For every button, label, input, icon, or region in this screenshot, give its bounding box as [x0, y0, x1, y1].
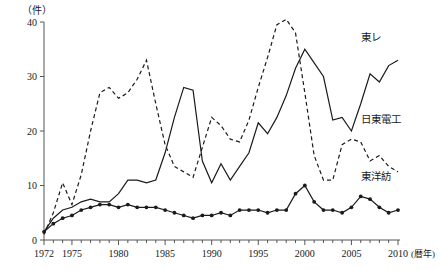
series-marker — [173, 211, 177, 215]
x-axis-unit-label: (暦年) — [411, 248, 435, 259]
series-marker — [210, 214, 214, 218]
line-chart: （件）0102030401972197519801985199019952000… — [0, 0, 444, 270]
x-tick-label: 1975 — [62, 248, 82, 259]
series-marker — [61, 216, 65, 220]
series-line-1 — [44, 19, 398, 234]
x-tick-label: 1972 — [34, 248, 54, 259]
series-marker — [200, 214, 204, 218]
series-marker — [247, 208, 251, 212]
series-marker — [238, 208, 242, 212]
x-tick-label: 1995 — [248, 248, 268, 259]
series-marker — [303, 184, 307, 188]
series-line-0 — [44, 49, 398, 232]
series-marker — [117, 205, 121, 209]
series-marker — [312, 200, 316, 204]
series-marker — [89, 205, 93, 209]
series-label-1: 日東電工 — [361, 113, 401, 125]
series-marker — [182, 214, 186, 218]
x-tick-label: 2000 — [295, 248, 315, 259]
series-marker — [331, 208, 335, 212]
series-marker — [79, 208, 83, 212]
series-marker — [284, 208, 288, 212]
series-marker — [70, 214, 74, 218]
series-marker — [98, 203, 102, 207]
series-marker — [266, 211, 270, 215]
y-tick-label: 20 — [27, 126, 37, 137]
y-tick-label: 0 — [32, 235, 37, 246]
series-marker — [387, 211, 391, 215]
series-marker — [256, 208, 260, 212]
series-marker — [42, 230, 46, 234]
chart-container: （件）0102030401972197519801985199019952000… — [0, 0, 444, 270]
series-line-2 — [44, 186, 398, 232]
series-marker — [294, 192, 298, 196]
series-marker — [228, 214, 232, 218]
series-marker — [135, 205, 139, 209]
series-marker — [368, 197, 372, 201]
series-marker — [163, 208, 167, 212]
series-marker — [377, 205, 381, 209]
y-tick-label: 40 — [27, 17, 37, 28]
series-marker — [191, 216, 195, 220]
x-tick-label: 2010 — [388, 248, 408, 259]
x-tick-label: 2005 — [341, 248, 361, 259]
series-marker — [350, 205, 354, 209]
series-marker — [359, 195, 363, 199]
series-marker — [145, 205, 149, 209]
series-marker — [396, 208, 400, 212]
series-label-0: 東レ — [361, 31, 381, 43]
x-tick-label: 1980 — [109, 248, 129, 259]
series-marker — [340, 211, 344, 215]
series-marker — [154, 205, 158, 209]
y-axis-unit-label: （件） — [22, 5, 52, 16]
x-tick-label: 1990 — [202, 248, 222, 259]
series-marker — [219, 211, 223, 215]
x-tick-label: 1985 — [155, 248, 175, 259]
y-tick-label: 30 — [27, 71, 37, 82]
series-marker — [275, 208, 279, 212]
series-marker — [322, 208, 326, 212]
y-tick-label: 10 — [27, 180, 37, 191]
series-marker — [126, 203, 130, 207]
series-label-2: 東洋紡 — [361, 170, 391, 182]
series-marker — [107, 203, 111, 207]
series-marker — [51, 222, 55, 226]
